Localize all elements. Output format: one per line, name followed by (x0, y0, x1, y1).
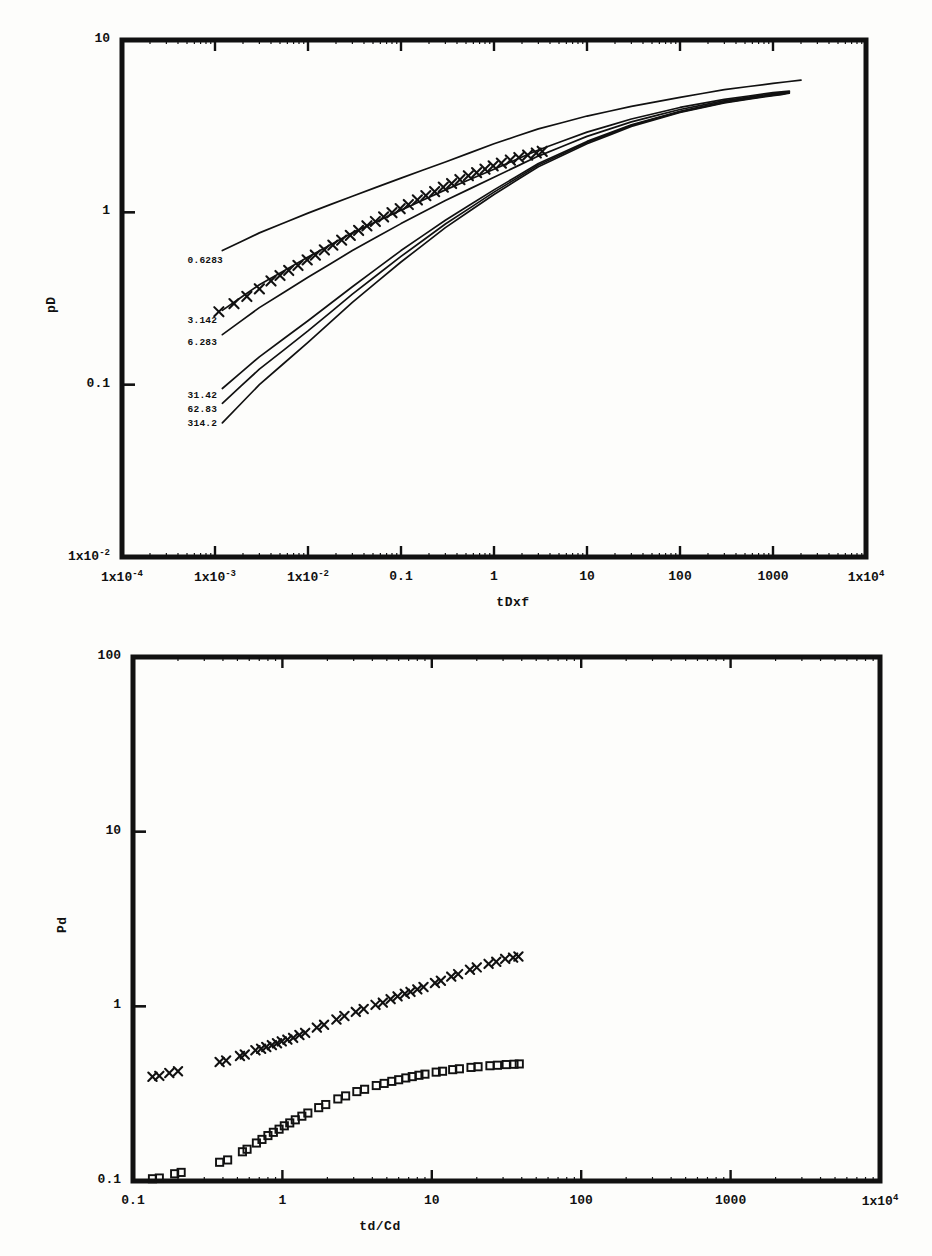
curve-label: 31.42 (188, 390, 218, 401)
series-line (222, 93, 789, 389)
y-tick-label: 10 (30, 31, 110, 46)
data-series (222, 93, 789, 389)
y-tick-label: 100 (41, 648, 121, 663)
y-tick-label: 0.1 (30, 376, 110, 391)
bottom-chart-x-axis-title: td/Cd (340, 1219, 420, 1234)
x-tick-label: 1x10-3 (173, 569, 257, 585)
top-chart-x-axis-title: tDxf (473, 595, 553, 610)
x-tick-label: 10 (545, 569, 629, 584)
bottom-chart-canvas (0, 630, 932, 1256)
x-tick-label: 100 (638, 569, 722, 584)
figure-page: pD tDxf 1x10-41x10-31x10-20.111010010001… (0, 0, 932, 1256)
x-tick-label: 1x104 (824, 569, 908, 585)
curve-label: 0.6283 (188, 255, 223, 266)
curve-label: 314.2 (188, 418, 218, 429)
x-tick-label: 1x104 (838, 1193, 922, 1209)
x-tick-label: 0.1 (359, 569, 443, 584)
top-chart-canvas (0, 0, 932, 630)
figure-bottom-chart: Pd td/Cd 0.111010010001x1041001010.1 (0, 630, 932, 1256)
bottom-chart-y-axis-title: Pd (55, 916, 70, 933)
y-tick-label: 1 (30, 203, 110, 218)
data-series (149, 1060, 523, 1182)
y-tick-label: 10 (41, 823, 121, 838)
x-tick-label: 1x10-4 (80, 569, 164, 585)
plot-frame (133, 657, 880, 1181)
x-tick-label: 100 (539, 1193, 623, 1208)
y-tick-label: 1x10-2 (30, 548, 110, 564)
x-tick-label: 10 (390, 1193, 474, 1208)
x-tick-label: 1000 (731, 569, 815, 584)
plot-frame (122, 40, 866, 557)
y-tick-label: 1 (41, 997, 121, 1012)
x-tick-label: 1 (240, 1193, 324, 1208)
data-series (148, 952, 522, 1081)
curve-label: 62.83 (188, 404, 218, 415)
top-chart-y-axis-title: pD (44, 296, 59, 313)
curve-label: 6.283 (188, 337, 218, 348)
x-tick-label: 1000 (689, 1193, 773, 1208)
curve-label: 3.142 (188, 315, 218, 326)
y-tick-label: 0.1 (41, 1172, 121, 1187)
x-tick-label: 1x10-2 (266, 569, 350, 585)
figure-top-chart: pD tDxf 1x10-41x10-31x10-20.111010010001… (0, 0, 932, 630)
x-tick-label: 0.1 (91, 1193, 175, 1208)
x-tick-label: 1 (452, 569, 536, 584)
